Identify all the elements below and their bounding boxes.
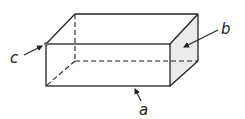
arrow-c [24,46,42,55]
label-a: a [139,101,148,119]
arrow-a [135,89,141,101]
rectangular-prism-diagram: c b a [0,0,245,119]
right-face-shaded [170,14,198,86]
label-b: b [221,20,231,38]
vertex-c-dot [44,42,48,46]
label-c: c [10,49,19,67]
